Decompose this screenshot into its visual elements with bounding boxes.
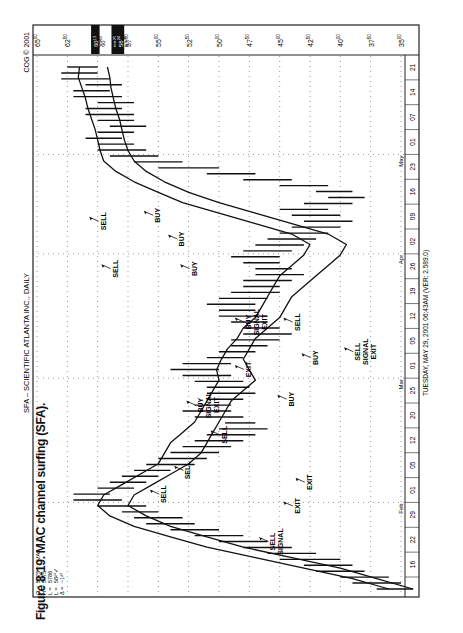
- y-tick-label: 5000: [215, 34, 223, 47]
- x-tick-label: 21: [409, 63, 416, 71]
- svg-text:EXIT: EXIT: [306, 474, 313, 490]
- signal-annotation: BUYSIGNALEXIT: [187, 391, 220, 418]
- signal-annotation: BUY: [181, 261, 198, 276]
- svg-text:SELL: SELL: [354, 342, 361, 361]
- stat-change-label: Δ =: [59, 587, 65, 595]
- svg-text:SIGNAL: SIGNAL: [205, 391, 212, 418]
- signal-annotation: BUY: [168, 231, 185, 246]
- signal-annotation: BUY: [278, 391, 295, 406]
- chart-title: SFA – SCIENTIFIC ATLANTA INC., DAILY: [22, 273, 31, 413]
- x-tick-label: 01: [409, 138, 416, 146]
- figure-caption: Figure 8-19. MAC channel surfing (SFA).: [34, 20, 48, 620]
- y-tick-label: 6250: [63, 34, 71, 47]
- svg-text:BUY: BUY: [197, 397, 204, 412]
- x-tick-label: 16: [409, 561, 416, 569]
- svg-text:SIGNAL: SIGNAL: [362, 338, 369, 365]
- svg-text:SIGNAL: SIGNAL: [253, 308, 260, 335]
- x-tick-label: 29: [409, 511, 416, 519]
- svg-text:EXIT: EXIT: [261, 314, 268, 330]
- chart-rotated-frame: SFA – SCIENTIFIC ATLANTA INC., DAILY COG…: [0, 0, 463, 633]
- mac-upper-line: [78, 67, 389, 589]
- month-label: Feb: [398, 503, 404, 514]
- svg-text:SELL: SELL: [112, 259, 119, 278]
- svg-text:BUY: BUY: [245, 314, 252, 329]
- y-tick-label: 5250: [185, 34, 193, 47]
- signal-annotation: SELLSIGNALEXIT: [344, 338, 377, 365]
- signal-annotation: EXIT: [235, 361, 252, 377]
- y-tick-label: 3500: [397, 34, 405, 47]
- x-tick-label: 12: [409, 436, 416, 444]
- svg-text:EXIT: EXIT: [213, 397, 220, 413]
- svg-text:SELL: SELL: [221, 425, 228, 444]
- x-tick-label: 25: [409, 387, 416, 395]
- copyright-label: COG © 2001: [23, 32, 30, 73]
- x-tick-label: 05: [409, 337, 416, 345]
- y-tick-label: 5500: [154, 34, 162, 47]
- y-tick-label: 3750: [367, 34, 375, 47]
- highlight-price-label: 6000: [98, 35, 106, 47]
- stat-change-value: −1²⁴: [59, 572, 65, 583]
- x-tick-label: 01: [409, 362, 416, 370]
- footer-timestamp: TUESDAY, MAY 29, 2001 06:43AM (VER: 2.58…: [422, 250, 430, 396]
- x-tick-label: 01: [409, 486, 416, 494]
- y-tick-label: 4250: [306, 34, 314, 47]
- svg-text:BUY: BUY: [178, 231, 185, 246]
- signal-annotation: BUY: [144, 208, 161, 223]
- x-tick-label: 26: [409, 262, 416, 270]
- month-label: May: [398, 155, 404, 166]
- svg-text:SELL: SELL: [100, 212, 107, 231]
- signal-annotation: SELL: [90, 212, 107, 231]
- svg-text:SELL: SELL: [294, 312, 301, 331]
- x-tick-label: 19: [409, 287, 416, 295]
- svg-text:SELL: SELL: [160, 484, 167, 503]
- svg-text:BUY: BUY: [191, 261, 198, 276]
- month-label: Mar: [398, 379, 404, 389]
- x-tick-label: 14: [409, 88, 416, 96]
- svg-text:BUY: BUY: [154, 208, 161, 223]
- x-tick-label: 02: [409, 237, 416, 245]
- x-tick-label: 05: [409, 461, 416, 469]
- chart-border: [33, 25, 419, 597]
- y-tick-label: 4750: [245, 34, 253, 47]
- x-tick-label: 22: [409, 536, 416, 544]
- svg-text:SELL: SELL: [184, 461, 191, 480]
- signal-annotation: EXIT: [284, 497, 301, 513]
- signal-annotation: BUY: [302, 350, 319, 365]
- y-tick-label: 4000: [336, 34, 344, 47]
- svg-text:BUY: BUY: [288, 391, 295, 406]
- x-tick-label: 07: [409, 113, 416, 121]
- y-tick-label: 4500: [276, 34, 284, 47]
- x-tick-label: 20: [409, 411, 416, 419]
- svg-text:EXIT: EXIT: [245, 361, 252, 377]
- svg-text:SELL: SELL: [269, 532, 276, 551]
- x-tick-label: 23: [409, 163, 416, 171]
- svg-text:EXIT: EXIT: [370, 343, 377, 359]
- x-tick-label: 12: [409, 312, 416, 320]
- svg-text:BUY: BUY: [312, 350, 319, 365]
- x-tick-label: 16: [409, 188, 416, 196]
- x-tick-label: 09: [409, 213, 416, 221]
- price-chart: SFA – SCIENTIFIC ATLANTA INC., DAILY COG…: [0, 0, 463, 633]
- signal-annotation: SELL: [102, 259, 119, 278]
- svg-text:SIGNAL: SIGNAL: [277, 528, 284, 555]
- month-label: Apr: [398, 255, 404, 264]
- figure-caption-wrap: Figure 8-19. MAC channel surfing (SFA).: [34, 20, 54, 620]
- signal-annotation: EXIT: [296, 474, 313, 490]
- svg-text:EXIT: EXIT: [294, 497, 301, 513]
- signal-annotation: SELL: [284, 312, 301, 331]
- signal-annotation: SELL: [150, 484, 167, 503]
